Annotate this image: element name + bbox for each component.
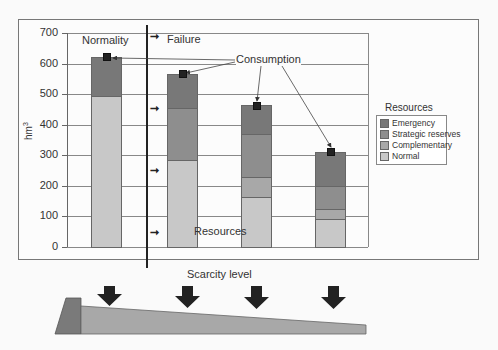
arrow-down-icon	[175, 286, 200, 308]
arrow-down-icon	[244, 286, 269, 309]
scarcity-arrows	[0, 0, 498, 350]
arrow-down-icon	[97, 286, 122, 306]
arrow-down-icon	[321, 286, 346, 309]
